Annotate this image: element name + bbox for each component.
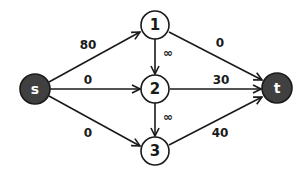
node-label-s: s [31, 81, 39, 97]
node-label-3: 3 [150, 142, 160, 160]
node-3: 3 [141, 137, 169, 165]
node-t: t [262, 73, 292, 103]
flow-network-diagram: 80 0 0 ∞ ∞ 0 30 40 s 1 2 3 t [0, 0, 308, 177]
edge-label-s-1: 80 [80, 38, 97, 52]
edge-label-2-3: ∞ [163, 110, 173, 124]
node-s: s [20, 74, 50, 104]
node-1: 1 [141, 11, 169, 39]
edge-label-s-3: 0 [84, 126, 92, 140]
edge-s-3 [49, 96, 140, 146]
node-2: 2 [141, 75, 169, 103]
node-label-t: t [274, 80, 281, 96]
node-label-2: 2 [150, 80, 160, 98]
edge-label-1-t: 0 [216, 36, 224, 50]
edge-label-3-t: 40 [212, 126, 229, 140]
edge-label-1-2: ∞ [163, 46, 173, 60]
edge-label-s-2: 0 [84, 73, 92, 87]
node-label-1: 1 [150, 16, 160, 34]
edge-label-2-t: 30 [213, 73, 230, 87]
